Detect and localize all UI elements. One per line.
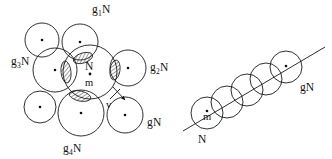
label-coset-gn-left-tail: N xyxy=(153,116,162,128)
label-coset-g4n-tail: N xyxy=(73,142,82,154)
label-subgroup-n: N xyxy=(85,60,94,72)
figure-root: N m v g 1 N g 2 N g 3 N xyxy=(0,0,332,159)
coset-circle-g2n-center-dot xyxy=(127,67,130,70)
label-element-m: m xyxy=(85,77,93,88)
label-coset-gn-left: g N xyxy=(147,116,162,129)
label-chain-gn: gN xyxy=(300,81,315,94)
free-circle-lower-left-center-dot xyxy=(39,106,42,109)
coset-circle-gn-center-dot xyxy=(124,114,127,117)
label-coset-g4n: g 4 N xyxy=(63,142,82,157)
coset-circle-g4n-center-dot xyxy=(80,112,83,115)
label-chain-n: N xyxy=(198,133,207,145)
label-coset-g1n-tail: N xyxy=(102,3,111,15)
chain-circle-gn-center-dot xyxy=(285,65,288,68)
subgroup-circle-n-center-dot xyxy=(89,73,92,76)
chain-circle-2 xyxy=(211,86,243,118)
label-chain-element-m: m xyxy=(203,111,211,122)
label-coset-g1n: g 1 N xyxy=(92,3,111,18)
coset-circle-g1n-center-dot xyxy=(79,41,82,44)
chain-circle-3 xyxy=(231,74,263,106)
left-coset-cluster: N m v g 1 N g 2 N g 3 N xyxy=(11,3,169,157)
label-coset-g3n: g 3 N xyxy=(11,55,30,70)
label-velocity-v: v xyxy=(106,99,112,110)
velocity-arrow-tick xyxy=(110,89,120,99)
coset-circle-g3n-center-dot xyxy=(54,69,57,72)
chain-circle-4 xyxy=(250,63,282,95)
free-circle-upper-left-center-dot xyxy=(41,39,44,42)
overlap-region-g3n xyxy=(60,61,72,84)
label-coset-g3n-tail: N xyxy=(21,55,30,67)
coset-figure-svg: N m v g 1 N g 2 N g 3 N xyxy=(0,0,332,159)
label-coset-g2n: g 2 N xyxy=(150,61,169,76)
label-coset-g2n-tail: N xyxy=(160,61,169,73)
right-coset-chain: m N gN xyxy=(183,47,325,145)
